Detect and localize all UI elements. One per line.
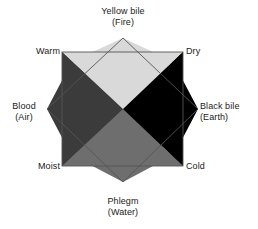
label-dry: Dry — [186, 46, 226, 57]
label-black-bile: Black bile (Earth) — [200, 101, 258, 123]
label-cold: Cold — [186, 161, 226, 172]
label-phlegm-name: Phlegm — [107, 196, 138, 206]
label-phlegm-element: (Water) — [0, 207, 246, 218]
label-moist: Moist — [14, 161, 60, 172]
label-blood-element: (Air) — [2, 112, 46, 123]
label-phlegm: Phlegm (Water) — [0, 196, 246, 218]
label-yellow-bile-name: Yellow bile — [101, 6, 144, 16]
label-black-bile-element: (Earth) — [200, 112, 258, 123]
label-warm: Warm — [20, 46, 60, 57]
label-blood-name: Blood — [12, 101, 36, 111]
star-wedges — [47, 38, 198, 182]
label-yellow-bile-element: (Fire) — [0, 17, 246, 28]
label-blood: Blood (Air) — [2, 101, 46, 123]
label-yellow-bile: Yellow bile (Fire) — [0, 6, 246, 28]
label-black-bile-name: Black bile — [200, 101, 240, 111]
